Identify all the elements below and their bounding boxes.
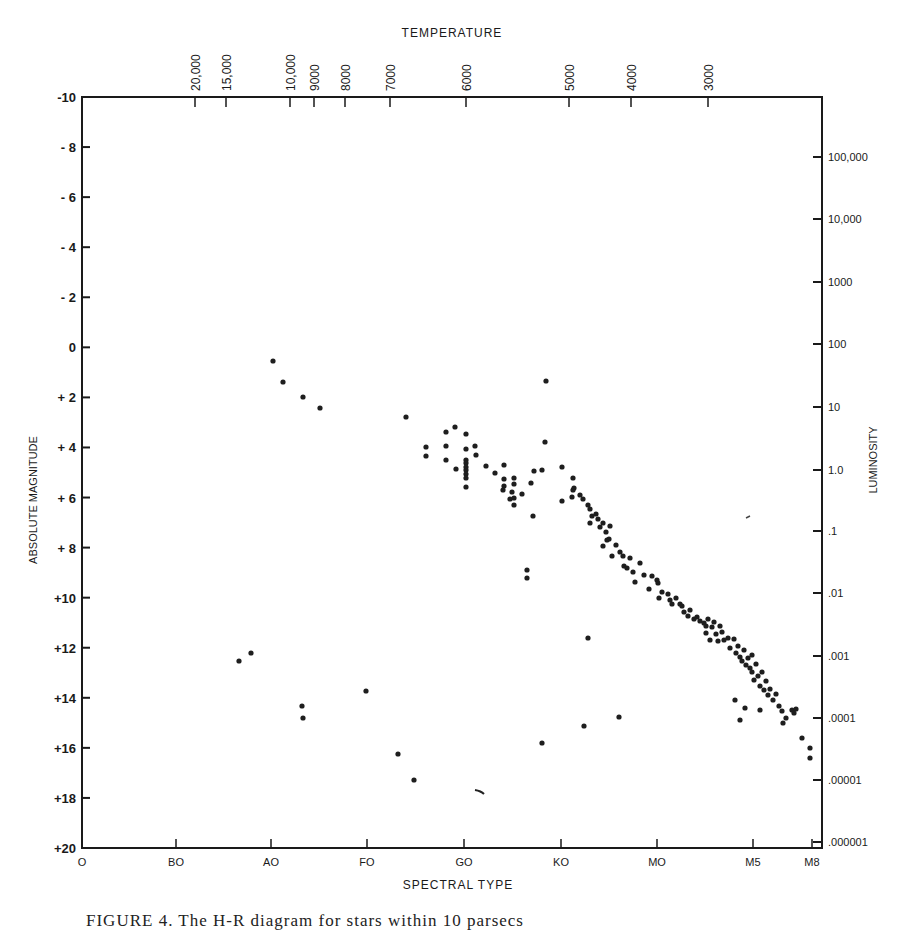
- star-point: [646, 586, 651, 591]
- star-point: [519, 491, 524, 496]
- star-point: [656, 595, 661, 600]
- temperature-axis: 20,00015,00010,0009000800070006000500040…: [189, 54, 716, 107]
- star-point: [300, 394, 305, 399]
- y-tick-label: - 8: [61, 140, 76, 155]
- star-point: [616, 714, 621, 719]
- star-point: [511, 502, 516, 507]
- star-point: [280, 379, 285, 384]
- figure-caption: FIGURE 4. The H-R diagram for stars with…: [86, 911, 524, 931]
- top-tick-label: 6000: [460, 64, 474, 91]
- star-point: [687, 607, 692, 612]
- star-point: [443, 443, 448, 448]
- star-point: [739, 658, 744, 663]
- star-point: [620, 553, 625, 558]
- star-point: [270, 358, 275, 363]
- star-point: [607, 523, 612, 528]
- star-point: [703, 630, 708, 635]
- y-tick-label: +12: [54, 641, 76, 656]
- star-point: [665, 591, 670, 596]
- y2-tick-label: .000001: [828, 836, 868, 848]
- star-point: [473, 452, 478, 457]
- star-point: [679, 603, 684, 608]
- y2-tick-label: 10,000: [828, 213, 862, 225]
- top-tick-label: 10,000: [284, 54, 298, 91]
- star-point: [501, 462, 506, 467]
- star-point: [236, 658, 241, 663]
- star-point: [709, 624, 714, 629]
- star-point: [735, 643, 740, 648]
- star-point: [423, 453, 428, 458]
- star-point: [641, 572, 646, 577]
- star-point: [463, 431, 468, 436]
- top-tick-label: 20,000: [189, 54, 203, 91]
- star-point: [799, 735, 804, 740]
- star-point: [755, 673, 760, 678]
- star-point: [559, 498, 564, 503]
- star-point: [524, 575, 529, 580]
- star-point: [757, 707, 762, 712]
- top-tick-label: 7000: [384, 64, 398, 91]
- star-point: [606, 536, 611, 541]
- top-tick-label: 15,000: [220, 54, 234, 91]
- star-point: [767, 686, 772, 691]
- y-tick-label: - 4: [61, 240, 77, 255]
- y-tick-label: +16: [54, 741, 76, 756]
- star-point: [741, 647, 746, 652]
- x-tick-label: O: [78, 856, 87, 868]
- star-point: [713, 631, 718, 636]
- star-point: [593, 511, 598, 516]
- star-point: [423, 444, 428, 449]
- x-axis-title: SPECTRAL TYPE: [403, 878, 513, 892]
- y-tick-label: +10: [54, 591, 76, 606]
- star-point: [463, 446, 468, 451]
- stray-mark: [746, 516, 750, 518]
- x-tick-label: GO: [455, 856, 473, 868]
- top-tick-label: 4000: [625, 64, 639, 91]
- plot-border: [82, 97, 822, 848]
- star-point: [542, 439, 547, 444]
- y-tick-label: 0: [69, 340, 76, 355]
- y-axis-title: ABSOLUTE MAGNITUDE: [27, 436, 39, 564]
- star-point: [363, 688, 368, 693]
- x-tick-label: M5: [745, 856, 760, 868]
- y2-tick-label: 100: [828, 338, 846, 350]
- y2-tick-label: .0001: [828, 712, 856, 724]
- star-point: [737, 717, 742, 722]
- y-tick-label: - 6: [61, 190, 76, 205]
- star-point: [571, 485, 576, 490]
- star-point: [807, 745, 812, 750]
- star-point: [624, 565, 629, 570]
- star-point: [511, 495, 516, 500]
- star-points: [236, 358, 812, 782]
- axis-titles: TEMPERATURE SPECTRAL TYPE ABSOLUTE MAGNI…: [27, 26, 879, 892]
- star-point: [763, 678, 768, 683]
- x-tick-label: KO: [553, 856, 569, 868]
- star-point: [463, 484, 468, 489]
- star-point: [703, 623, 708, 628]
- star-point: [543, 378, 548, 383]
- star-point: [528, 480, 533, 485]
- star-point: [705, 616, 710, 621]
- star-point: [509, 489, 514, 494]
- y2-tick-label: .001: [828, 650, 849, 662]
- star-point: [776, 703, 781, 708]
- star-point: [483, 463, 488, 468]
- y-tick-label: -10: [57, 90, 76, 105]
- star-point: [655, 580, 660, 585]
- star-point: [559, 464, 564, 469]
- star-point: [731, 636, 736, 641]
- star-point: [317, 405, 322, 410]
- star-point: [753, 661, 758, 666]
- star-point: [807, 755, 812, 760]
- star-point: [395, 751, 400, 756]
- star-point: [765, 692, 770, 697]
- star-point: [637, 560, 642, 565]
- absolute-magnitude-axis: -10- 8- 6- 4- 20+ 2+ 4+ 6+ 8+10+12+14+16…: [54, 90, 90, 856]
- top-tick-label: 8000: [339, 64, 353, 91]
- star-point: [732, 697, 737, 702]
- star-point: [524, 567, 529, 572]
- y2-tick-label: .01: [828, 587, 843, 599]
- star-point: [472, 443, 477, 448]
- star-point: [759, 669, 764, 674]
